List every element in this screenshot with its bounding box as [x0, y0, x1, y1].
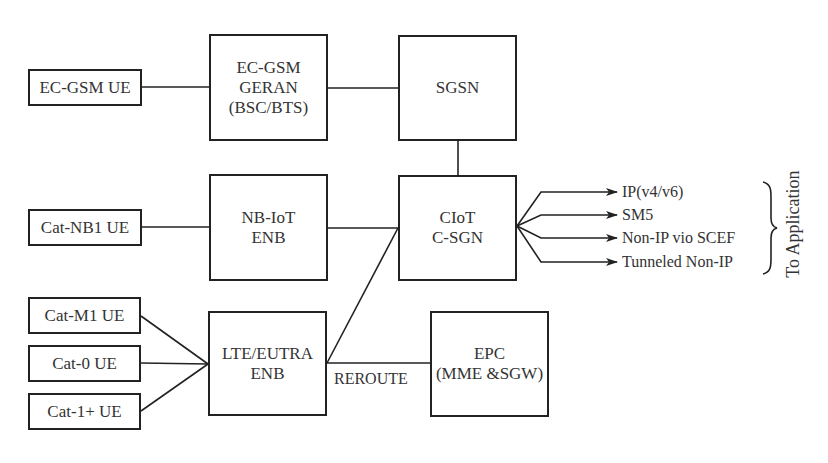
- edge-cat0-to-lte: [141, 363, 208, 364]
- output-arrow-3: [517, 226, 617, 238]
- output-arrow-2: [517, 215, 617, 226]
- output-label-tunneled-non-ip: Tunneled Non-IP: [622, 253, 733, 271]
- node-label: NB-IoT ENB: [242, 208, 296, 248]
- output-label-sm5: SM5: [622, 206, 653, 224]
- node-label: CIoT C-SGN: [432, 208, 483, 248]
- node-label: EPC (MME &SGW): [436, 344, 543, 384]
- node-sgsn: SGSN: [398, 35, 517, 141]
- edge-label-reroute: REROUTE: [334, 370, 408, 388]
- node-ec-gsm-ue: EC-GSM UE: [28, 69, 142, 106]
- edge-lte-to-ciot: [327, 228, 398, 363]
- node-label: Cat-1+ UE: [47, 402, 121, 422]
- node-cat-0-ue: Cat-0 UE: [28, 345, 141, 382]
- output-arrow-1: [517, 192, 617, 226]
- node-lte-enb: LTE/EUTRA ENB: [208, 311, 327, 416]
- node-label: Cat-NB1 UE: [41, 218, 129, 238]
- node-label: Cat-0 UE: [52, 354, 117, 374]
- group-label-to-application: To Application: [783, 166, 803, 282]
- node-nbiot-enb: NB-IoT ENB: [209, 174, 328, 281]
- node-label: LTE/EUTRA ENB: [222, 344, 313, 384]
- output-label-non-ip-scef: Non-IP vio SCEF: [622, 229, 735, 247]
- node-label: EC-GSM UE: [39, 78, 130, 98]
- node-epc: EPC (MME &SGW): [430, 311, 549, 417]
- node-cat-m1-ue: Cat-M1 UE: [28, 297, 141, 334]
- node-cat-1plus-ue: Cat-1+ UE: [28, 393, 141, 430]
- output-label-ip: IP(v4/v6): [622, 183, 683, 201]
- output-arrow-4: [517, 226, 617, 262]
- node-label: SGSN: [436, 78, 479, 98]
- node-label: EC-GSM GERAN (BSC/BTS): [229, 58, 308, 118]
- edge-catm1-to-lte: [141, 316, 208, 364]
- node-label: Cat-M1 UE: [45, 306, 125, 326]
- group-brace: [763, 182, 777, 274]
- node-cat-nb1-ue: Cat-NB1 UE: [28, 209, 142, 246]
- node-ciot-csgn: CIoT C-SGN: [398, 175, 517, 281]
- edge-cat1plus-to-lte: [141, 364, 208, 411]
- node-geran: EC-GSM GERAN (BSC/BTS): [209, 34, 328, 141]
